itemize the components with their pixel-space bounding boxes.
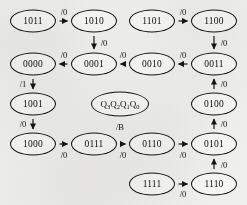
state-node-label: 0100 (204, 99, 224, 109)
transition-output-label-1011-to-1010: /0 (61, 8, 68, 17)
state-node-label: 0110 (142, 139, 161, 149)
transition-output-label-1000-to-0111: /0 (61, 151, 68, 160)
state-node-label: 1101 (142, 16, 161, 26)
transition-output-label-1111-to-1110: /0 (180, 190, 187, 199)
state-node-0101[interactable]: 0101 (191, 133, 237, 156)
state-vector-label: Q3Q2Q1Q0 (101, 100, 140, 109)
state-node-0111[interactable]: 0111 (71, 133, 117, 156)
state-node-1001[interactable]: 1001 (10, 93, 56, 116)
state-node-label: 0001 (84, 59, 104, 69)
state-node-0001[interactable]: 0001 (71, 53, 117, 76)
state-node-0110[interactable]: 0110 (129, 133, 175, 156)
transition-output-label-0010-to-0001: /0 (120, 51, 127, 60)
state-node-label: 0111 (84, 139, 103, 149)
state-node-label: 1010 (84, 16, 104, 26)
transition-output-label-0100-to-0011: /0 (221, 80, 228, 89)
state-node-label: 1111 (143, 179, 162, 189)
state-node-0100[interactable]: 0100 (191, 93, 237, 116)
transition-output-label-1100-to-0011: /0 (221, 39, 228, 48)
transition-output-label-1010-to-0001: /0 (101, 39, 108, 48)
transition-output-label-1101-to-1100: /0 (180, 8, 187, 17)
state-node-0011[interactable]: 0011 (191, 53, 237, 76)
transition-output-label-1110-to-0101: /0 (221, 161, 228, 170)
transition-output-label-0111-to-0110: /0 (120, 151, 127, 160)
state-vector-legend: Q3Q2Q1Q0 (91, 92, 149, 117)
transition-output-label-0000-to-1001: /1 (20, 80, 27, 89)
transition-output-label-1001-to-1000: /0 (20, 120, 27, 129)
state-node-label: 0101 (204, 139, 224, 149)
state-node-1110[interactable]: 1110 (191, 173, 237, 196)
transition-output-label-0001-to-0000: /0 (61, 51, 68, 60)
transition-output-label-0110-to-0101: /0 (180, 151, 187, 160)
state-node-label: 1110 (204, 179, 223, 189)
state-node-1111[interactable]: 1111 (129, 173, 175, 196)
transition-output-label-0101-to-0100: /0 (221, 120, 228, 129)
state-node-label: 0000 (23, 59, 43, 69)
state-node-1011[interactable]: 1011 (10, 10, 56, 33)
state-node-0000[interactable]: 0000 (10, 53, 56, 76)
state-node-1000[interactable]: 1000 (10, 133, 56, 156)
state-node-label: 0010 (142, 59, 162, 69)
state-node-label: 1000 (23, 139, 43, 149)
state-node-label: 1011 (23, 16, 42, 26)
state-node-1010[interactable]: 1010 (71, 10, 117, 33)
state-node-label: 1001 (23, 99, 43, 109)
state-node-0010[interactable]: 0010 (129, 53, 175, 76)
state-node-label: 1100 (204, 16, 223, 26)
state-node-1101[interactable]: 1101 (129, 10, 175, 33)
state-node-label: 0011 (204, 59, 223, 69)
state-node-1100[interactable]: 1100 (191, 10, 237, 33)
transition-output-label-0011-to-0010: /0 (180, 51, 187, 60)
state-diagram: 1011101011011100000000010010001110010100… (0, 0, 247, 205)
